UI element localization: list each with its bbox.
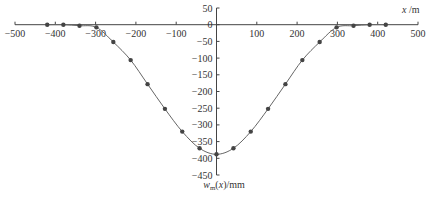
data-point-marker xyxy=(384,23,388,27)
y-axis-title: wm(x)/mm xyxy=(203,179,245,192)
x-tick-label: 200 xyxy=(290,28,305,39)
data-point-marker xyxy=(351,24,355,28)
x-tick-label: −500 xyxy=(5,28,26,39)
x-tick-label: −400 xyxy=(45,28,66,39)
y-tick-label: −200 xyxy=(192,86,213,97)
data-point-marker xyxy=(231,146,235,150)
y-tick-label: −100 xyxy=(192,53,213,64)
data-point-marker xyxy=(111,40,115,44)
data-point-marker xyxy=(249,129,253,133)
x-tick-label: 100 xyxy=(249,28,264,39)
data-point-marker xyxy=(367,23,371,27)
data-point-marker xyxy=(145,82,149,86)
data-point-marker xyxy=(283,82,287,86)
data-point-marker xyxy=(197,146,201,150)
axes xyxy=(15,8,418,175)
settlement-chart: −500−400−300−200−100100200300400500500−5… xyxy=(0,0,426,202)
data-point-marker xyxy=(61,23,65,27)
x-tick-label: −100 xyxy=(166,28,187,39)
y-tick-label: −350 xyxy=(192,136,213,147)
y-tick-label: −300 xyxy=(192,119,213,130)
y-tick-label: −250 xyxy=(192,103,213,114)
x-tick-label: 500 xyxy=(411,28,426,39)
x-tick-label: −200 xyxy=(126,28,147,39)
data-point-marker xyxy=(317,40,321,44)
x-axis-title: x /m xyxy=(401,4,420,15)
y-tick-label: −150 xyxy=(192,69,213,80)
x-tick-label: 400 xyxy=(370,28,385,39)
y-tick-label: −400 xyxy=(192,153,213,164)
data-point-marker xyxy=(266,107,270,111)
data-point-marker xyxy=(163,107,167,111)
data-point-marker xyxy=(128,58,132,62)
data-point-marker xyxy=(300,58,304,62)
data-point-marker xyxy=(180,129,184,133)
y-tick-label: 0 xyxy=(208,19,213,30)
data-point-marker xyxy=(334,25,338,29)
data-point-marker xyxy=(94,25,98,29)
y-tick-label: 50 xyxy=(203,3,213,14)
data-point-marker xyxy=(214,152,218,156)
data-point-marker xyxy=(77,24,81,28)
data-point-marker xyxy=(45,23,49,27)
y-tick-label: −50 xyxy=(197,36,213,47)
